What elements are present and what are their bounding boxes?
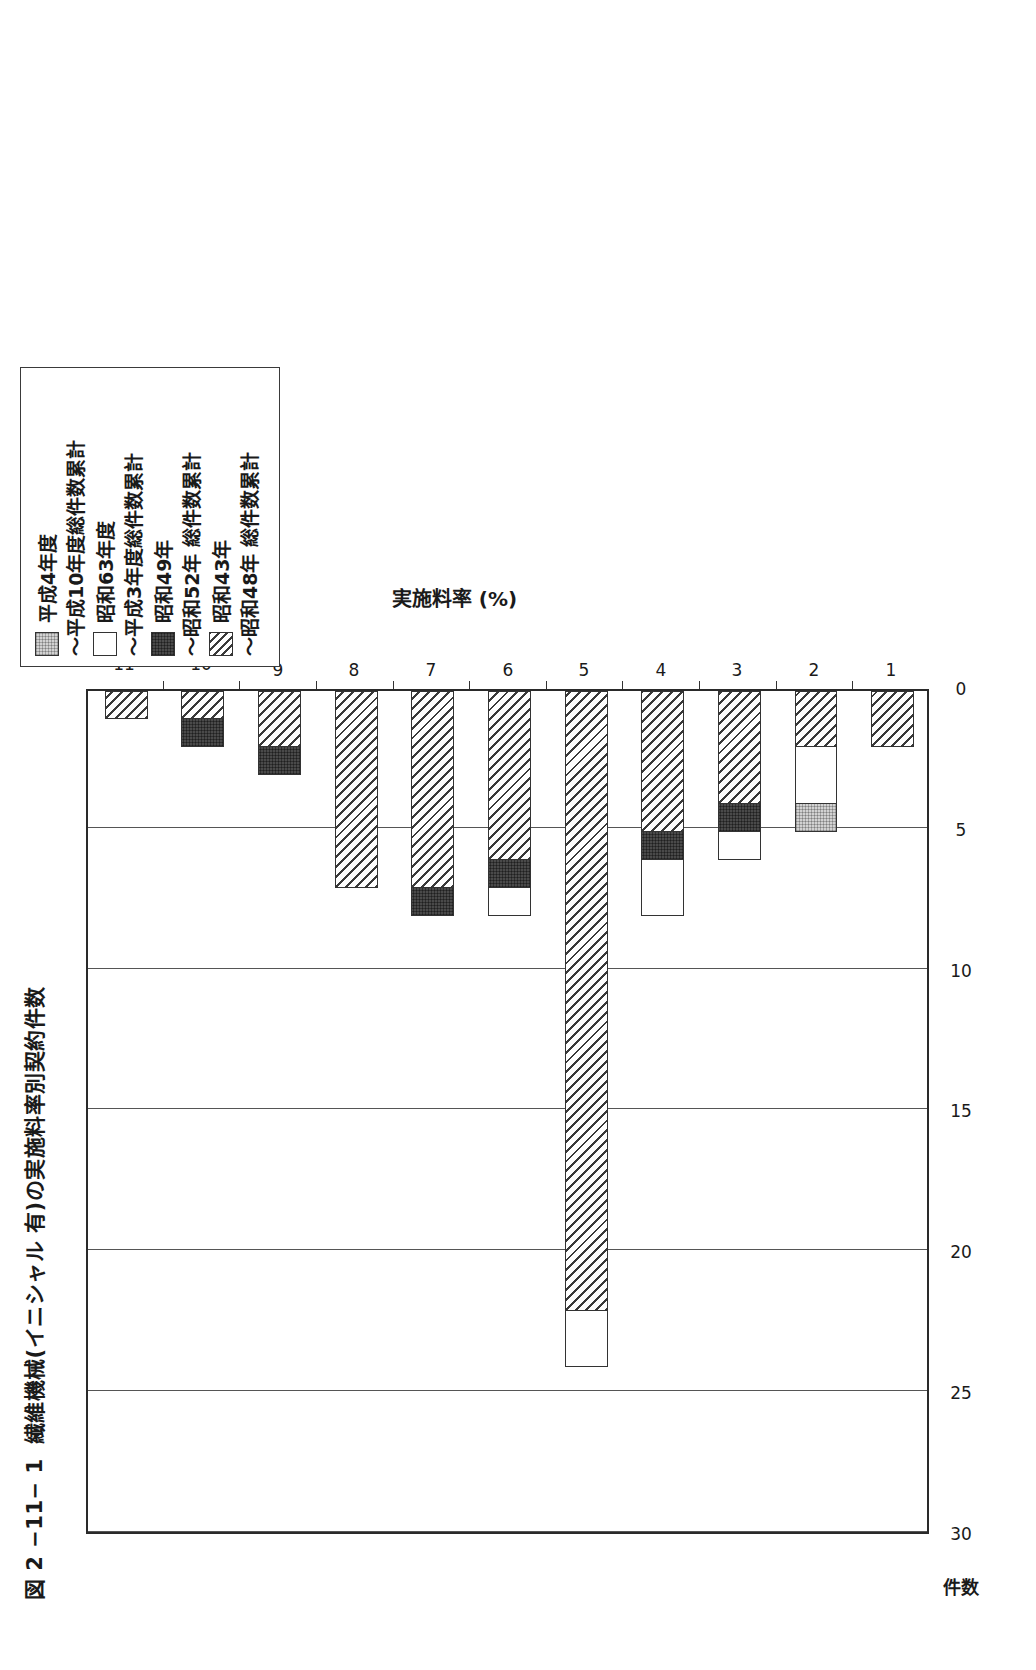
y-tick-15: 15 (950, 1102, 972, 1122)
bar-group-5 (565, 691, 608, 1367)
legend-entry-cont-1: 〜平成3年度総件数累計 (119, 453, 146, 656)
legend-label-line2-0: 〜平成10年度総件数累計 (61, 440, 88, 656)
y-tick-25: 25 (950, 1383, 972, 1403)
bar-segment-10-s1 (181, 719, 224, 747)
legend-label-line1-1: 昭和63年度 (91, 521, 118, 623)
legend-swatch-diagonal-hatch-icon (209, 632, 233, 656)
bar-segment-5-s2 (565, 1311, 608, 1367)
figure-number: 図 2 −11− 1 (23, 1458, 47, 1600)
bar-group-6 (488, 691, 531, 916)
legend-entry-cont-2: 〜昭和52年 総件数累計 (177, 452, 204, 656)
x-tickmark-8 (316, 681, 317, 689)
legend-label-line2-3: 〜昭和48年 総件数累計 (235, 452, 262, 656)
legend-label-line2-2: 〜昭和52年 総件数累計 (177, 452, 204, 656)
bar-segment-3-s2 (718, 832, 761, 860)
legend-label-line2-1: 〜平成3年度総件数累計 (119, 453, 146, 656)
legend: 平成4年度〜平成10年度総件数累計昭和63年度〜平成3年度総件数累計昭和49年〜… (20, 367, 280, 667)
x-tick-7: 7 (425, 660, 436, 680)
x-tickmark-10 (163, 681, 164, 689)
x-tick-8: 8 (349, 660, 360, 680)
bar-segment-4-s2 (641, 860, 684, 916)
bar-segment-4-s1 (641, 832, 684, 860)
x-tickmark-4 (622, 681, 623, 689)
bar-group-3 (718, 691, 761, 860)
bar-segment-7-s1 (411, 888, 454, 916)
bar-segment-6-s2 (488, 888, 531, 916)
bar-segment-9-s1 (258, 747, 301, 775)
bar-segment-4-s0 (641, 691, 684, 832)
plot-area (86, 689, 929, 1534)
x-tickmark-5 (546, 681, 547, 689)
bar-segment-1-s0 (871, 691, 914, 747)
legend-entry-2: 昭和49年 (149, 540, 176, 656)
bar-segment-2-s0 (795, 691, 838, 747)
bar-segment-11-s0 (105, 691, 148, 719)
bar-segment-9-s0 (258, 691, 301, 747)
bar-segment-3-s0 (718, 691, 761, 804)
x-tick-1: 1 (885, 660, 896, 680)
bar-segment-8-s0 (335, 691, 378, 888)
bar-group-10 (181, 691, 224, 747)
rotated-figure-stage: 図 2 −11− 1繊維機械(イニシャル 有)の実施料率別契約件数 051015… (0, 0, 1036, 1670)
x-tick-6: 6 (502, 660, 513, 680)
y-tick-5: 5 (956, 820, 967, 840)
y-axis-label: 件数 (943, 1579, 979, 1598)
bar-group-8 (335, 691, 378, 888)
legend-swatch-dark-dotted-icon (151, 632, 175, 656)
y-tick-0: 0 (956, 679, 967, 699)
y-tick-30: 30 (950, 1524, 972, 1544)
bar-segment-2-s3 (795, 804, 838, 832)
y-tick-10: 10 (950, 961, 972, 981)
legend-entry-0: 平成4年度 (33, 534, 60, 656)
legend-label-line1-0: 平成4年度 (33, 534, 60, 623)
x-tickmark-9 (239, 681, 240, 689)
x-tickmark-1 (852, 681, 853, 689)
legend-entry-cont-3: 〜昭和48年 総件数累計 (235, 452, 262, 656)
y-tick-20: 20 (950, 1242, 972, 1262)
bar-segment-3-s1 (718, 804, 761, 832)
x-tick-2: 2 (809, 660, 820, 680)
legend-swatch-light-gray-dotted-icon (35, 632, 59, 656)
x-tickmark-3 (699, 681, 700, 689)
x-tickmark-2 (776, 681, 777, 689)
bar-segment-2-s2 (795, 747, 838, 803)
bar-group-11 (105, 691, 148, 719)
x-axis-label: 実施料率 (%) (392, 583, 517, 612)
bar-group-2 (795, 691, 838, 832)
x-tick-3: 3 (732, 660, 743, 680)
bar-segment-6-s1 (488, 860, 531, 888)
figure-title-text: 繊維機械(イニシャル 有)の実施料率別契約件数 (23, 986, 47, 1444)
x-tick-5: 5 (579, 660, 590, 680)
bar-segment-6-s0 (488, 691, 531, 860)
legend-entry-cont-0: 〜平成10年度総件数累計 (61, 440, 88, 656)
x-tick-4: 4 (655, 660, 666, 680)
x-tickmark-6 (469, 681, 470, 689)
legend-entry-3: 昭和43年 (207, 540, 234, 656)
bar-segment-5-s0 (565, 691, 608, 1311)
bar-group-1 (871, 691, 914, 747)
bar-segment-10-s0 (181, 691, 224, 719)
legend-label-line1-2: 昭和49年 (149, 540, 176, 623)
x-tickmark-7 (393, 681, 394, 689)
legend-swatch-white-icon (93, 632, 117, 656)
bars-layer (88, 691, 927, 1532)
figure-title: 図 2 −11− 1繊維機械(イニシャル 有)の実施料率別契約件数 (18, 986, 48, 1600)
bar-group-9 (258, 691, 301, 775)
legend-label-line1-3: 昭和43年 (207, 540, 234, 623)
figure-page: 図 2 −11− 1繊維機械(イニシャル 有)の実施料率別契約件数 051015… (0, 0, 1036, 1670)
bar-segment-7-s0 (411, 691, 454, 888)
bar-group-7 (411, 691, 454, 916)
legend-entry-1: 昭和63年度 (91, 521, 118, 656)
bar-group-4 (641, 691, 684, 916)
